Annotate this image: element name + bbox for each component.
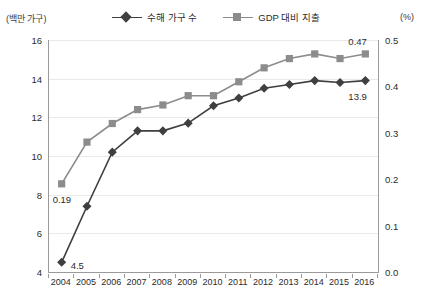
- x-axis-tickmark: [175, 274, 176, 278]
- data-point-marker: [58, 180, 65, 187]
- plot-area: [48, 40, 379, 273]
- x-axis-tickmark: [149, 274, 150, 278]
- data-point-marker: [336, 78, 345, 87]
- data-point-marker: [209, 101, 218, 110]
- x-axis-tickmark: [276, 274, 277, 278]
- data-point-marker: [83, 138, 90, 145]
- data-point-marker: [261, 64, 268, 71]
- y-axis-left-tick: 12: [31, 112, 42, 123]
- data-point-marker: [336, 55, 343, 62]
- data-point-marker: [82, 202, 91, 211]
- y-axis-left-tick: 14: [31, 73, 42, 84]
- data-point-marker: [361, 76, 370, 85]
- data-point-marker: [310, 76, 319, 85]
- data-point-marker: [158, 126, 167, 135]
- data-point-marker: [260, 84, 269, 93]
- data-point-marker: [184, 119, 193, 128]
- x-axis-tick-label: 2014: [304, 277, 324, 287]
- data-point-marker: [210, 92, 217, 99]
- x-axis-tickmark: [124, 274, 125, 278]
- y-axis-right-tick: 0.2: [385, 174, 398, 185]
- legend-label: 수해 가구 수: [147, 10, 197, 24]
- data-point-marker: [109, 120, 116, 127]
- legend-item-2: GDP 대비 지출: [223, 10, 320, 24]
- x-axis-tick-label: 2006: [101, 277, 121, 287]
- y-axis-left: 46810121416: [8, 40, 42, 272]
- data-annotation: 13.9: [348, 91, 367, 102]
- data-point-marker: [185, 92, 192, 99]
- y-axis-right-tick: 0.5: [385, 35, 398, 46]
- left-axis-unit-label: (백만 가구): [6, 12, 47, 25]
- x-axis-tick-label: 2013: [278, 277, 298, 287]
- x-axis-tickmark: [352, 274, 353, 278]
- data-point-marker: [235, 78, 242, 85]
- x-axis-tick-label: 2005: [76, 277, 96, 287]
- chart-legend: 수해 가구 수GDP 대비 지출: [112, 10, 320, 24]
- data-point-marker: [134, 106, 141, 113]
- data-point-marker: [234, 93, 243, 102]
- x-axis-tick-label: 2011: [228, 277, 247, 287]
- chart-container: (백만 가구) (%) 수해 가구 수GDP 대비 지출 46810121416…: [0, 0, 422, 299]
- x-axis-tickmark: [200, 274, 201, 278]
- x-axis-tickmark: [48, 274, 49, 278]
- data-annotation: 4.5: [71, 260, 84, 271]
- y-axis-left-tick: 6: [37, 228, 42, 239]
- data-point-marker: [159, 101, 166, 108]
- square-marker-icon: [223, 12, 253, 23]
- data-point-marker: [286, 55, 293, 62]
- x-axis-tick-label: 2009: [177, 277, 197, 287]
- y-axis-right: 0.00.10.20.30.40.5: [385, 40, 421, 272]
- x-axis-tickmark: [250, 274, 251, 278]
- x-axis-tick-label: 2007: [127, 277, 147, 287]
- data-point-marker: [311, 50, 318, 57]
- y-axis-right-tick: 0.3: [385, 127, 398, 138]
- y-axis-right-tick: 0.4: [385, 81, 398, 92]
- right-axis-unit-label: (%): [400, 12, 414, 22]
- y-axis-right-tick: 0.1: [385, 220, 398, 231]
- y-axis-left-tick: 16: [31, 35, 42, 46]
- x-axis-tickmark: [73, 274, 74, 278]
- x-axis: 2004200520062007200820092010201120122013…: [48, 274, 377, 294]
- data-point-marker: [285, 80, 294, 89]
- data-point-marker: [362, 50, 369, 57]
- y-axis-left-tick: 8: [37, 189, 42, 200]
- x-axis-tick-label: 2012: [253, 277, 273, 287]
- x-axis-tick-label: 2008: [152, 277, 172, 287]
- legend-item-1: 수해 가구 수: [112, 10, 197, 24]
- data-annotation: 0.47: [348, 36, 367, 47]
- x-axis-tick-label: 2015: [329, 277, 349, 287]
- y-axis-left-tick: 10: [31, 151, 42, 162]
- x-axis-tickmark: [377, 274, 378, 278]
- series-layer: [49, 40, 378, 272]
- data-point-marker: [57, 258, 66, 267]
- x-axis-tick-label: 2016: [354, 277, 374, 287]
- x-axis-tickmark: [99, 274, 100, 278]
- y-axis-right-tick: 0.0: [385, 267, 398, 278]
- x-axis-tickmark: [326, 274, 327, 278]
- x-axis-tickmark: [225, 274, 226, 278]
- data-annotation: 0.19: [53, 194, 72, 205]
- x-axis-tick-label: 2004: [51, 277, 71, 287]
- x-axis-tickmark: [301, 274, 302, 278]
- x-axis-tick-label: 2010: [202, 277, 222, 287]
- diamond-marker-icon: [112, 12, 142, 23]
- legend-label: GDP 대비 지출: [258, 10, 320, 24]
- y-axis-left-tick: 4: [37, 267, 42, 278]
